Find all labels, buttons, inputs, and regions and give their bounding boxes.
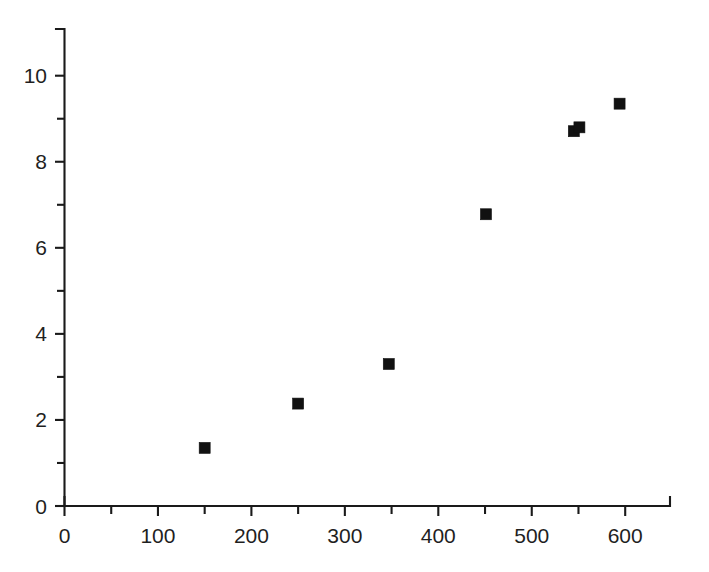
y-axis-minor-ticks bbox=[57, 119, 65, 463]
y-tick-label: 0 bbox=[35, 495, 47, 518]
y-tick-label: 10 bbox=[24, 64, 47, 87]
x-tick-label: 300 bbox=[327, 524, 362, 547]
y-tick-label: 2 bbox=[35, 408, 47, 431]
y-tick-label: 4 bbox=[35, 322, 47, 345]
scatter-plot-figure: 0246810 0100200300400500600 bbox=[0, 0, 709, 572]
x-axis-tick-labels: 0100200300400500600 bbox=[59, 524, 643, 547]
y-axis: 0246810 bbox=[24, 29, 65, 518]
data-point-marker bbox=[574, 122, 585, 133]
y-tick-label: 8 bbox=[35, 150, 47, 173]
data-point-series bbox=[199, 98, 625, 453]
y-axis-line bbox=[56, 29, 65, 506]
x-tick-label: 500 bbox=[514, 524, 549, 547]
x-axis: 0100200300400500600 bbox=[59, 496, 670, 547]
data-point-marker bbox=[480, 209, 491, 220]
x-tick-label: 0 bbox=[59, 524, 71, 547]
x-tick-label: 600 bbox=[608, 524, 643, 547]
y-tick-label: 6 bbox=[35, 236, 47, 259]
x-axis-line bbox=[65, 497, 671, 506]
data-point-marker bbox=[614, 98, 625, 109]
y-axis-tick-labels: 0246810 bbox=[24, 64, 48, 517]
data-point-marker bbox=[293, 398, 304, 409]
x-tick-label: 200 bbox=[234, 524, 269, 547]
data-point-marker bbox=[199, 442, 210, 453]
x-tick-label: 400 bbox=[421, 524, 456, 547]
plot-area: 0246810 0100200300400500600 bbox=[0, 0, 709, 572]
x-tick-label: 100 bbox=[140, 524, 175, 547]
data-point-marker bbox=[383, 359, 394, 370]
